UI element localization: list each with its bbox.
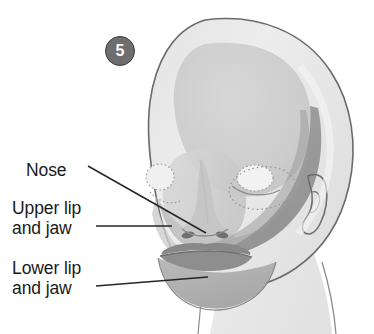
figure-container: 5 Nose Upper lip and jaw Lower lip and j…	[0, 0, 374, 334]
label-upper-lip-and-jaw: Upper lip and jaw	[12, 198, 81, 238]
figure-number-badge: 5	[105, 36, 135, 66]
label-nose: Nose	[26, 160, 66, 180]
label-lower-lip-and-jaw: Lower lip and jaw	[12, 258, 81, 298]
